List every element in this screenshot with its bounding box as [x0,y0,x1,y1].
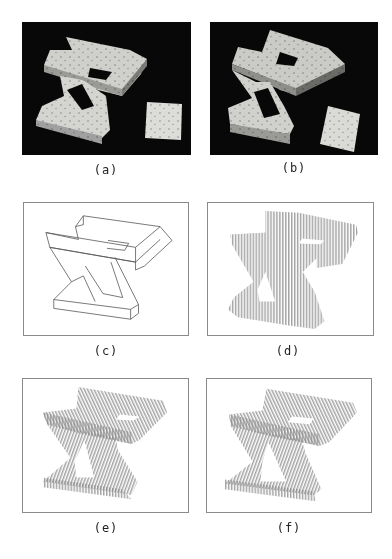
render-frame-b [210,22,378,155]
render-frame-a [22,22,191,155]
line-drawing-frame-c [23,202,189,336]
caption-d: (d) [258,344,318,358]
shaded-object-render [22,22,191,155]
directional-hatch-render-variant [207,379,371,512]
shaded-object-render-rotated [210,22,378,155]
directional-hatch-render [23,379,188,512]
line-drawing [24,203,188,335]
caption-b: (b) [264,161,324,175]
caption-a: (a) [76,163,136,177]
hatched-frame-f [206,378,372,513]
vertical-hatch-silhouette [208,203,373,335]
caption-e: (e) [76,521,136,535]
caption-f: (f) [259,521,319,535]
hatched-frame-e [22,378,189,513]
caption-c: (c) [76,344,136,358]
hatched-frame-d [207,202,374,336]
